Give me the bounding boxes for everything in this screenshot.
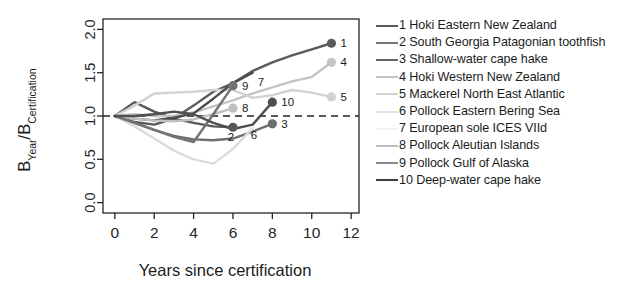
legend-label-5: 5 Mackerel North East Atlantic	[399, 88, 565, 101]
legend-swatch-5	[376, 93, 398, 95]
legend-swatch-1	[376, 25, 398, 27]
legend-swatch-9	[376, 162, 398, 164]
series-endpoint-marker-8	[228, 104, 237, 113]
legend-item-1: 1 Hoki Eastern New Zealand	[376, 17, 616, 34]
series-endpoint-marker-1	[327, 39, 336, 48]
legend-swatch-7	[376, 128, 398, 130]
figure-container: 0.00.51.01.52.0024681012Years since cert…	[0, 0, 617, 304]
legend-item-7: 7 European sole ICES VIId	[376, 120, 616, 137]
series-endpoint-marker-9	[228, 81, 237, 90]
series-endpoint-label-8: 8	[242, 102, 248, 114]
legend-swatch-6	[376, 111, 398, 113]
legend-label-3: 3 Shallow-water cape hake	[399, 53, 548, 66]
legend-label-2: 2 South Georgia Patagonian toothfish	[399, 36, 605, 49]
series-endpoint-label-5: 5	[340, 91, 346, 103]
series-endpoint-marker-10	[268, 98, 277, 107]
series-endpoint-label-4: 4	[340, 56, 347, 68]
legend-swatch-8	[376, 145, 398, 147]
legend-swatch-10	[376, 179, 398, 181]
series-endpoint-label-9: 9	[242, 80, 248, 92]
legend-item-2: 2 South Georgia Patagonian toothfish	[376, 34, 616, 51]
legend-item-6: 6 Pollock Eastern Bering Sea	[376, 103, 616, 120]
y-tick-label-1.5: 1.5	[82, 63, 98, 83]
legend-label-1: 1 Hoki Eastern New Zealand	[399, 19, 557, 32]
legend-item-4: 4 Hoki Western New Zealand	[376, 69, 616, 86]
legend-label-7: 7 European sole ICES VIId	[399, 122, 547, 135]
legend-label-10: 10 Deep-water cape hake	[399, 174, 541, 187]
legend-swatch-2	[376, 42, 398, 44]
series-endpoint-marker-3	[268, 119, 277, 128]
series-endpoint-label-3: 3	[281, 118, 287, 130]
x-tick-label-4: 4	[189, 224, 198, 241]
legend-item-8: 8 Pollock Aleutian Islands	[376, 137, 616, 154]
series-endpoint-marker-5	[327, 92, 336, 101]
legend-item-10: 10 Deep-water cape hake	[376, 172, 616, 189]
legend-label-9: 9 Pollock Gulf of Alaska	[399, 157, 529, 170]
x-tick-label-2: 2	[150, 224, 159, 241]
legend-item-3: 3 Shallow-water cape hake	[376, 51, 616, 68]
x-tick-label-0: 0	[111, 224, 120, 241]
x-tick-label-12: 12	[342, 224, 359, 241]
y-tick-label-2.0: 2.0	[82, 19, 98, 39]
legend-item-5: 5 Mackerel North East Atlantic	[376, 86, 616, 103]
y-tick-label-0.5: 0.5	[82, 149, 98, 169]
x-tick-label-8: 8	[268, 224, 277, 241]
chart-legend: 1 Hoki Eastern New Zealand2 South Georgi…	[376, 17, 616, 189]
legend-item-9: 9 Pollock Gulf of Alaska	[376, 155, 616, 172]
legend-label-8: 8 Pollock Aleutian Islands	[399, 139, 539, 152]
x-tick-label-6: 6	[229, 224, 238, 241]
legend-label-4: 4 Hoki Western New Zealand	[399, 71, 560, 84]
series-endpoint-label-2: 2	[228, 131, 234, 143]
x-tick-label-10: 10	[303, 224, 321, 241]
series-endpoint-label-6: 6	[251, 129, 257, 141]
series-endpoint-label-7: 7	[258, 76, 264, 88]
series-endpoint-marker-4	[327, 58, 336, 67]
legend-swatch-4	[376, 76, 398, 78]
y-tick-label-0.0: 0.0	[82, 193, 98, 213]
legend-swatch-3	[376, 59, 398, 61]
series-endpoint-label-10: 10	[281, 96, 294, 108]
x-axis-title: Years since certification	[139, 261, 312, 279]
y-axis-title: BYear/BCertification	[15, 68, 38, 171]
y-tick-label-1.0: 1.0	[82, 106, 98, 126]
legend-label-6: 6 Pollock Eastern Bering Sea	[399, 105, 560, 118]
series-endpoint-label-1: 1	[340, 37, 346, 49]
